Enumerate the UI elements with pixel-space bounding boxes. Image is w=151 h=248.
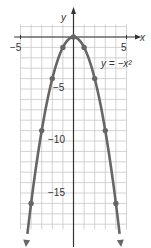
parabola-chart: y x −5 5 −5 −10 −15 y = −x² <box>0 0 151 248</box>
y-tick-neg10: −10 <box>48 134 65 145</box>
equation-label: y = −x² <box>100 58 132 69</box>
y-axis-label: y <box>60 12 67 23</box>
x-tick-5: 5 <box>121 42 127 53</box>
x-tick-neg5: −5 <box>10 42 22 53</box>
y-tick-neg5: −5 <box>53 82 65 93</box>
x-axis-label: x <box>139 32 146 43</box>
y-tick-neg15: −15 <box>48 187 65 198</box>
